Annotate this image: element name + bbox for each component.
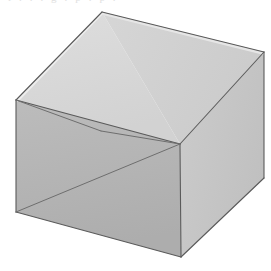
open-box-illustration: Open rectangular box (cuboid container),… — [0, 0, 271, 271]
figure-canvas: i . . . g . p . p . Open rectangular box… — [0, 0, 271, 271]
box-faces — [16, 12, 264, 257]
